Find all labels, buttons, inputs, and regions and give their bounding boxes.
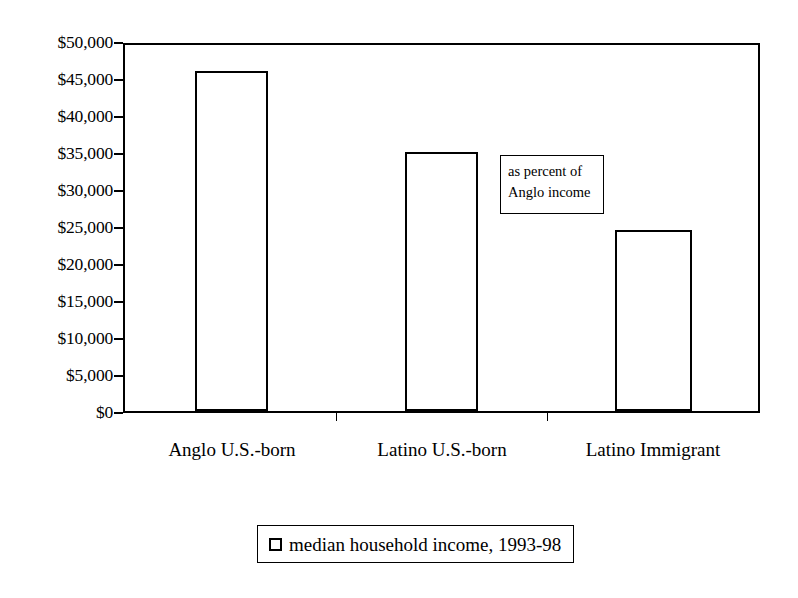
y-tick-label-45000: $45,000 [58, 71, 113, 89]
bar-latino-us-born[interactable] [405, 152, 478, 411]
y-tick-mark-25000 [114, 227, 123, 229]
plot-area [123, 43, 760, 413]
y-tick-mark-10000 [114, 338, 123, 340]
bar-anglo-us-born[interactable] [195, 71, 268, 411]
bar-chart-figure: $0 $5,000 $10,000 $15,000 $20,000 $25,00… [0, 0, 798, 598]
y-tick-mark-45000 [114, 79, 123, 81]
x-label-anglo-us-born: Anglo U.S.-born [168, 440, 295, 459]
y-tick-mark-30000 [114, 190, 123, 192]
legend-swatch-icon [269, 538, 282, 551]
y-tick-label-30000: $30,000 [58, 182, 113, 200]
chart-legend: median household income, 1993-98 [257, 525, 574, 563]
y-axis-labels: $0 $5,000 $10,000 $15,000 $20,000 $25,00… [0, 43, 113, 413]
y-tick-label-20000: $20,000 [58, 256, 113, 274]
y-tick-mark-15000 [114, 301, 123, 303]
y-tick-label-40000: $40,000 [58, 108, 113, 126]
y-tick-label-15000: $15,000 [58, 293, 113, 311]
x-tick-mark-2 [547, 413, 548, 421]
y-tick-label-5000: $5,000 [66, 367, 113, 385]
y-tick-label-25000: $25,000 [58, 219, 113, 237]
y-tick-mark-40000 [114, 116, 123, 118]
bar-latino-immigrant[interactable] [615, 230, 692, 411]
y-tick-mark-35000 [114, 153, 123, 155]
legend-label: median household income, 1993-98 [289, 535, 561, 554]
y-tick-label-50000: $50,000 [58, 34, 113, 52]
y-tick-mark-0 [114, 412, 123, 414]
y-tick-label-35000: $35,000 [58, 145, 113, 163]
y-tick-label-0: $0 [96, 404, 113, 422]
y-tick-mark-50000 [114, 42, 123, 44]
x-label-latino-immigrant: Latino Immigrant [586, 440, 721, 459]
x-label-latino-us-born: Latino U.S.-born [377, 440, 506, 459]
y-tick-mark-20000 [114, 264, 123, 266]
annotation-line-1: as percent of [508, 161, 596, 182]
annotation-line-2: Anglo income [508, 182, 596, 203]
y-tick-label-10000: $10,000 [58, 330, 113, 348]
x-tick-mark-1 [336, 413, 337, 421]
y-tick-mark-5000 [114, 375, 123, 377]
annotation-textbox: as percent of Anglo income [500, 155, 604, 214]
